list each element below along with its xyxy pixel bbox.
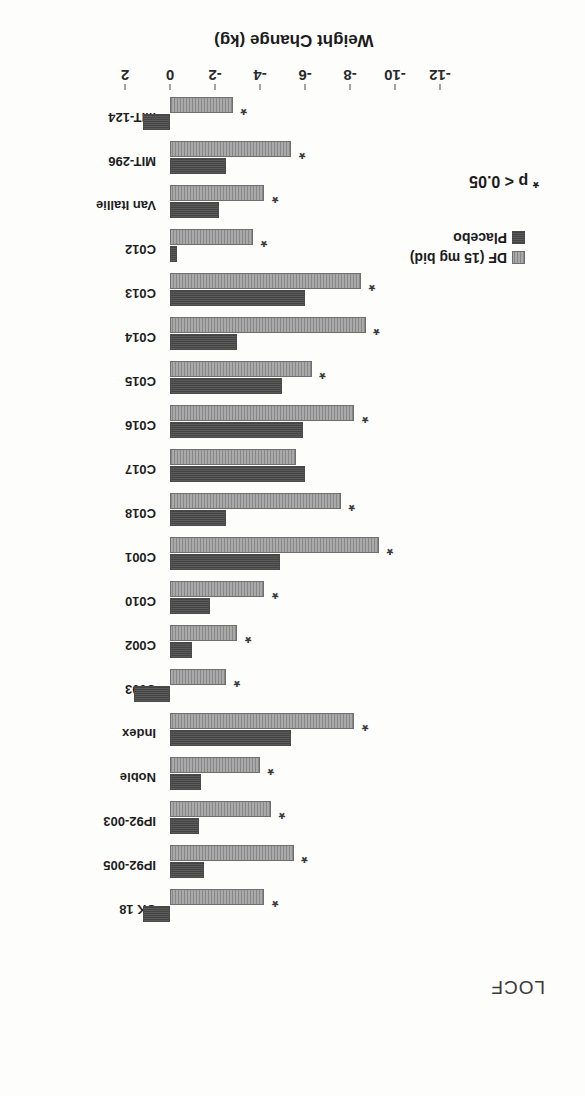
category-label: C015 bbox=[46, 374, 156, 389]
chart-row: IP92-005* bbox=[0, 838, 585, 882]
bar-placebo bbox=[170, 818, 199, 834]
bar-chart-figure: LOCF UK 18*IP92-005*IP92-003*Noble*Index… bbox=[0, 0, 585, 1096]
category-label: C012 bbox=[46, 242, 156, 257]
category-label: IP92-005 bbox=[46, 858, 156, 873]
axis-tick-mark bbox=[170, 84, 171, 90]
bar-placebo bbox=[170, 202, 220, 218]
significance-star: * bbox=[362, 716, 369, 733]
bar-df bbox=[170, 361, 312, 377]
category-label: C010 bbox=[46, 594, 156, 609]
chart-row: IP92-003* bbox=[0, 794, 585, 838]
significance-star: * bbox=[234, 672, 241, 689]
axis-tick-label: -2 bbox=[208, 67, 221, 84]
category-label: IP92-003 bbox=[46, 814, 156, 829]
significance-star: * bbox=[362, 408, 369, 425]
axis-tick-mark bbox=[395, 84, 396, 90]
bar-placebo bbox=[134, 686, 170, 702]
category-label: C002 bbox=[46, 638, 156, 653]
significance-star: * bbox=[369, 276, 376, 293]
category-label: Van Itallie bbox=[46, 198, 156, 213]
significance-star: * bbox=[261, 232, 268, 249]
significance-star: * bbox=[267, 760, 274, 777]
chart-row: MIT-124* bbox=[0, 90, 585, 134]
chart-row: C013* bbox=[0, 266, 585, 310]
bar-df bbox=[170, 185, 265, 201]
significance-star: * bbox=[319, 364, 326, 381]
bar-df bbox=[170, 141, 292, 157]
bar-df bbox=[170, 317, 366, 333]
bar-df bbox=[170, 449, 296, 465]
category-label: C017 bbox=[46, 462, 156, 477]
chart-row: UK 18* bbox=[0, 882, 585, 926]
significance-star: * bbox=[299, 144, 306, 161]
significance-star: * bbox=[272, 892, 279, 909]
figure-page: LOCF UK 18*IP92-005*IP92-003*Noble*Index… bbox=[0, 0, 585, 1096]
significance-star: * bbox=[240, 100, 247, 117]
chart-row: C010* bbox=[0, 574, 585, 618]
axis-tick-label: 2 bbox=[121, 67, 129, 84]
bar-df bbox=[170, 537, 379, 553]
significance-star: * bbox=[272, 188, 279, 205]
category-label: C016 bbox=[46, 418, 156, 433]
chart-row: C015* bbox=[0, 354, 585, 398]
bar-placebo bbox=[143, 114, 170, 130]
bar-placebo bbox=[170, 246, 177, 262]
bar-df bbox=[170, 713, 355, 729]
bar-df bbox=[170, 581, 265, 597]
significance-star: * bbox=[245, 628, 252, 645]
bar-placebo bbox=[170, 642, 193, 658]
plot-area: UK 18*IP92-005*IP92-003*Noble*Index*C003… bbox=[0, 0, 585, 1096]
chart-row: C002* bbox=[0, 618, 585, 662]
bar-placebo bbox=[170, 290, 305, 306]
significance-star: * bbox=[348, 496, 355, 513]
bar-placebo bbox=[170, 554, 280, 570]
legend-swatch-placebo bbox=[512, 232, 525, 245]
axis-tick-label: 0 bbox=[166, 67, 174, 84]
bar-df bbox=[170, 757, 260, 773]
bar-df bbox=[170, 889, 265, 905]
significance-star: * bbox=[373, 320, 380, 337]
bar-df bbox=[170, 845, 294, 861]
axis-tick-mark bbox=[260, 84, 261, 90]
category-label: Index bbox=[46, 726, 156, 741]
bar-placebo bbox=[170, 730, 292, 746]
value-axis: 20-2-4-6-8-10-12 bbox=[0, 44, 585, 84]
bar-df bbox=[170, 229, 253, 245]
legend-swatch-df bbox=[512, 252, 525, 265]
axis-tick-mark bbox=[305, 84, 306, 90]
bar-placebo bbox=[170, 158, 226, 174]
bar-df bbox=[170, 625, 238, 641]
chart-row: Index* bbox=[0, 706, 585, 750]
legend-label: Placebo bbox=[453, 230, 507, 246]
category-label: C018 bbox=[46, 506, 156, 521]
category-label: C001 bbox=[46, 550, 156, 565]
category-label: Noble bbox=[46, 770, 156, 785]
chart-row: C014* bbox=[0, 310, 585, 354]
chart-row: C003* bbox=[0, 662, 585, 706]
category-label: C014 bbox=[46, 330, 156, 345]
bar-placebo bbox=[170, 510, 226, 526]
axis-tick-mark bbox=[440, 84, 441, 90]
bar-placebo bbox=[170, 466, 305, 482]
chart-row: C001* bbox=[0, 530, 585, 574]
bar-placebo bbox=[170, 774, 202, 790]
significance-star: * bbox=[387, 540, 394, 557]
significance-star: * bbox=[272, 584, 279, 601]
axis-tick-mark bbox=[125, 84, 126, 90]
chart-row: C018* bbox=[0, 486, 585, 530]
significance-star: * bbox=[279, 804, 286, 821]
axis-tick-mark bbox=[215, 84, 216, 90]
significance-note: * p < 0.05 bbox=[469, 172, 539, 190]
category-label: MIT-296 bbox=[46, 154, 156, 169]
bar-df bbox=[170, 273, 361, 289]
rotated-figure-canvas: LOCF UK 18*IP92-005*IP92-003*Noble*Index… bbox=[0, 0, 585, 1096]
axis-tick-label: -12 bbox=[429, 67, 451, 84]
legend-item: Placebo bbox=[410, 230, 525, 246]
bar-df bbox=[170, 669, 226, 685]
axis-tick-label: -10 bbox=[384, 67, 406, 84]
category-label: MIT-124 bbox=[46, 110, 156, 125]
chart-row: C016* bbox=[0, 398, 585, 442]
legend-item: DF (15 mg bid) bbox=[410, 250, 525, 266]
bar-placebo bbox=[143, 906, 170, 922]
bar-placebo bbox=[170, 598, 211, 614]
